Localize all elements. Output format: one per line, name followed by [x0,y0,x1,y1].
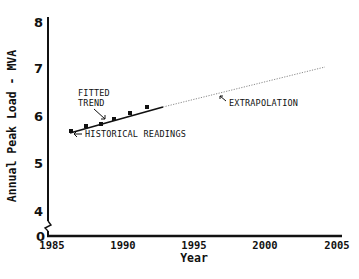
x-tick-1985: 1985 [39,239,64,251]
data-point [99,122,103,126]
y-axis-title: Annual Peak Load - MVA [5,50,19,202]
x-tick-2000: 2000 [252,239,277,251]
annotation-fitted: FITTED [78,88,110,98]
annotation-extrapolation: EXTRAPOLATION [229,98,298,108]
y-tick-7: 7 [34,61,43,76]
data-point [128,111,132,115]
x-tick-1990: 1990 [110,239,135,251]
peak-load-chart: 8 7 6 5 4 0 1985 1990 1995 2000 2005 Yea… [0,0,359,279]
annotation-trend: TREND [78,98,105,108]
x-tick-2005: 2005 [324,239,349,251]
y-tick-8: 8 [34,15,43,30]
y-tick-5: 5 [34,156,43,171]
x-tick-1995: 1995 [181,239,206,251]
x-axis-title: Year [180,251,208,265]
y-tick-4: 4 [34,204,43,219]
annotation-historical: HISTORICAL READINGS [85,129,186,139]
y-axis [45,17,51,237]
data-point [69,129,73,133]
y-tick-6: 6 [34,109,43,124]
arrow-icon [94,109,105,119]
data-point [112,117,116,121]
arrow-icon [220,96,226,101]
data-point [145,105,149,109]
data-point [84,124,88,128]
axis-break-icon [45,221,51,231]
